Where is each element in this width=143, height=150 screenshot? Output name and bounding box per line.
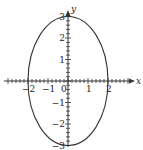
x-tick-label: −2: [22, 84, 35, 94]
y-tick-label: 2: [59, 33, 65, 43]
y-tick-labels: −3−2−1123: [52, 12, 66, 150]
x-tick-label: −1: [42, 84, 55, 94]
axes: [4, 10, 135, 147]
y-tick-label: −1: [52, 98, 65, 108]
x-tick-label: 0: [61, 84, 67, 94]
y-tick-label: 3: [59, 12, 65, 22]
x-axis-arrow-icon: [129, 79, 135, 84]
y-axis-arrow-icon: [66, 10, 71, 16]
x-tick-label: 2: [106, 84, 112, 94]
y-tick-label: 1: [59, 55, 65, 65]
ellipse-plot: x y −2−1012 −3−2−1123: [0, 0, 143, 149]
y-tick-label: −2: [52, 119, 65, 129]
y-tick-label: −3: [52, 141, 66, 150]
x-tick-label: 1: [86, 84, 92, 94]
x-axis-label: x: [136, 76, 141, 86]
y-axis-label: y: [70, 4, 77, 14]
